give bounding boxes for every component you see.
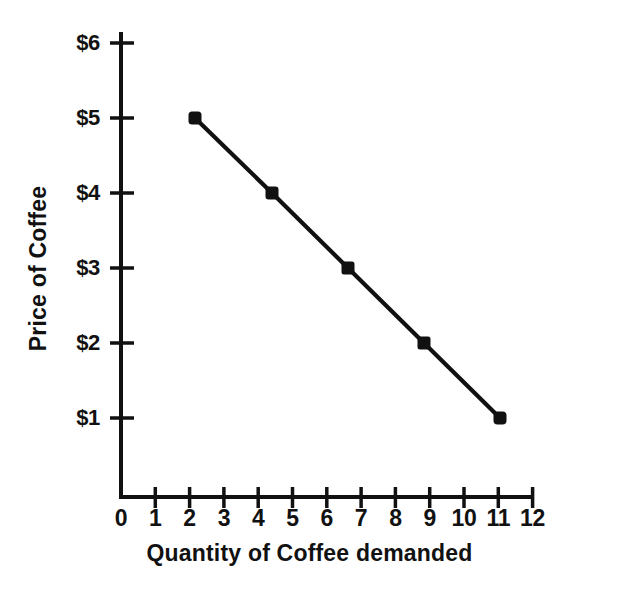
x-axis-title: Quantity of Coffee demanded <box>0 540 619 567</box>
y-tick-label-1: $1 <box>36 405 100 431</box>
y-tick-label-5: $5 <box>36 105 100 131</box>
y-axis-title: Price of Coffee <box>25 149 52 389</box>
y-tick-label-6: $6 <box>36 30 100 56</box>
demand-curve-chart: $6 $5 $4 $3 $2 $1 0 1 2 3 4 5 6 7 8 9 10… <box>0 0 619 595</box>
x-tick-label-12: 12 <box>513 505 553 532</box>
data-point-marker <box>342 262 355 275</box>
data-point-marker <box>266 187 279 200</box>
data-point-marker <box>189 112 202 125</box>
data-point-marker <box>418 337 431 350</box>
data-point-marker <box>494 412 507 425</box>
